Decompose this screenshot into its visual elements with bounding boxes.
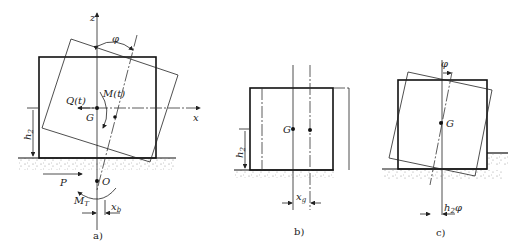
xb-label: xb bbox=[111, 201, 122, 214]
moment-label: M(t) bbox=[102, 88, 125, 99]
panel-b: G h2 xg b) bbox=[234, 65, 349, 237]
panel-c: φ G h2φ c) bbox=[382, 58, 508, 238]
pivot-label: O bbox=[102, 176, 110, 187]
xg-label: xg bbox=[296, 191, 307, 204]
soil-step-hatch bbox=[487, 153, 508, 165]
caption-b: b) bbox=[294, 226, 304, 237]
soil-hatch bbox=[234, 170, 334, 178]
x-axis-label: x bbox=[193, 112, 199, 123]
caption-a: a) bbox=[93, 230, 103, 241]
figure-canvas: z x φ G Q(t) M(t) h2 P O MT bbox=[0, 0, 527, 251]
center-label: G bbox=[446, 118, 454, 129]
block-original bbox=[398, 80, 487, 169]
center-label: G bbox=[86, 112, 94, 123]
force-q-label: Q(t) bbox=[66, 95, 86, 106]
shifted-center bbox=[308, 128, 312, 132]
center-of-gravity bbox=[291, 127, 295, 131]
caption-c: c) bbox=[436, 227, 446, 238]
moment-t-label: MT bbox=[73, 195, 90, 208]
angle-label: φ bbox=[441, 58, 448, 69]
push-label: P bbox=[59, 177, 67, 188]
pivot-point bbox=[95, 179, 99, 183]
shifted-center bbox=[113, 115, 117, 119]
z-axis-label: z bbox=[89, 12, 96, 23]
center-label: G bbox=[283, 124, 291, 135]
angle-label: φ bbox=[112, 33, 119, 44]
h2phi-label: h2φ bbox=[444, 202, 462, 215]
center-of-gravity bbox=[439, 121, 443, 125]
panel-a: z x φ G Q(t) M(t) h2 P O MT bbox=[18, 12, 200, 241]
